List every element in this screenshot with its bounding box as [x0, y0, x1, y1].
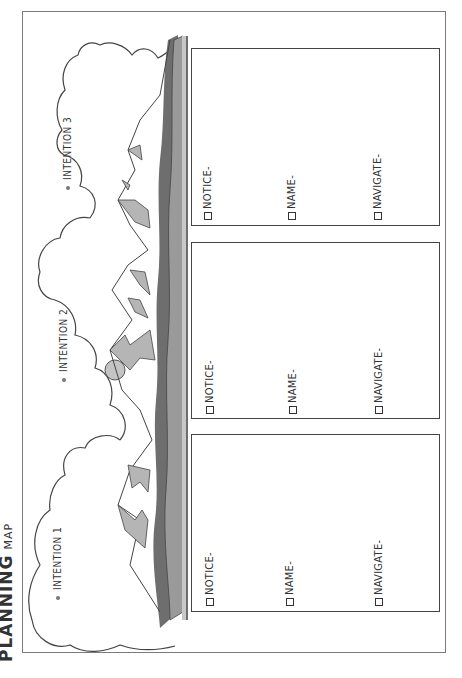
intention-3-label: INTENTION 3: [62, 117, 73, 190]
checkbox-icon[interactable]: [206, 406, 214, 414]
page-title: PLANNING MAP: [0, 523, 16, 662]
snowcap-4: [128, 298, 148, 318]
checkbox-icon[interactable]: [375, 598, 383, 606]
checkbox-icon[interactable]: [374, 212, 382, 220]
checkbox-item-navigate[interactable]: NAVIGATE-: [371, 154, 384, 220]
panel-intention-1: [191, 434, 440, 612]
snowcap-6: [118, 200, 150, 228]
snowcap-8: [128, 145, 142, 160]
checkbox-icon[interactable]: [289, 406, 297, 414]
checkbox-item-notice[interactable]: NOTICE-: [203, 552, 216, 606]
checkbox-icon[interactable]: [375, 406, 383, 414]
cloud-intention-2: [38, 217, 125, 440]
cloud-intention-3: [57, 43, 175, 218]
title-sub: MAP: [2, 523, 15, 550]
sun-icon: [105, 360, 125, 380]
checkbox-item-notice[interactable]: NOTICE-: [201, 166, 214, 220]
dot-icon: [56, 596, 60, 600]
snowcap-2: [128, 465, 150, 492]
panel-intention-2: [191, 242, 440, 419]
checkbox-item-name[interactable]: NAME-: [283, 561, 296, 606]
checkbox-icon[interactable]: [288, 212, 296, 220]
cloud-intention-1: [29, 436, 175, 652]
checkbox-item-name[interactable]: NAME-: [286, 369, 299, 414]
checkbox-item-name[interactable]: NAME-: [285, 175, 298, 220]
checkbox-icon[interactable]: [206, 598, 214, 606]
snowcap-1: [118, 505, 148, 548]
intention-1-label: INTENTION 1: [52, 527, 63, 600]
checkbox-item-navigate[interactable]: NAVIGATE-: [372, 348, 385, 414]
checkbox-item-notice[interactable]: NOTICE-: [203, 360, 216, 414]
dot-icon: [66, 186, 70, 190]
checkbox-item-navigate[interactable]: NAVIGATE-: [372, 540, 385, 606]
checkbox-icon[interactable]: [286, 598, 294, 606]
panel-intention-3: [191, 48, 440, 226]
dot-icon: [62, 378, 66, 382]
checkbox-icon[interactable]: [204, 212, 212, 220]
snowcap-5: [130, 270, 150, 295]
intention-2-label: INTENTION 2: [58, 309, 69, 382]
title-main: PLANNING: [0, 555, 16, 662]
